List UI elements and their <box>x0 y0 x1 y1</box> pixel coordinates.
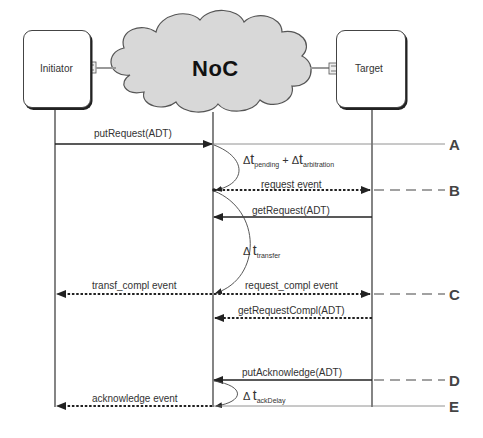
request-event-label: request event <box>261 180 322 190</box>
getRequest-label: getRequest(ADT) <box>252 206 330 216</box>
marker-E: E <box>449 399 459 414</box>
putRequest-label: putRequest(ADT) <box>94 129 172 139</box>
transf-compl-event-label: transf_compl event <box>92 281 177 291</box>
marker-A: A <box>449 137 460 152</box>
transfer-arc <box>214 191 250 293</box>
marker-D: D <box>449 373 460 388</box>
pending-arbitration-arc <box>214 145 239 190</box>
ackDelay-delay: Δ tackDelay <box>243 388 286 404</box>
getRequestCompl-label: getRequestCompl(ADT) <box>238 306 345 316</box>
pending-arbitration-delay: Δtpending + Δtarbitration <box>243 152 334 168</box>
initiator-label: Initiator <box>40 63 73 74</box>
ackDelay-arc <box>214 381 238 406</box>
target-label: Target <box>355 63 383 74</box>
transfer-delay: Δ ttransfer <box>243 243 280 259</box>
marker-B: B <box>449 183 460 198</box>
putAcknowledge-label: putAcknowledge(ADT) <box>242 368 342 378</box>
request-compl-event-label: request_compl event <box>245 281 338 291</box>
marker-C: C <box>449 287 460 302</box>
acknowledge-event-label: acknowledge event <box>92 394 178 404</box>
noc-label: NoC <box>192 56 239 82</box>
